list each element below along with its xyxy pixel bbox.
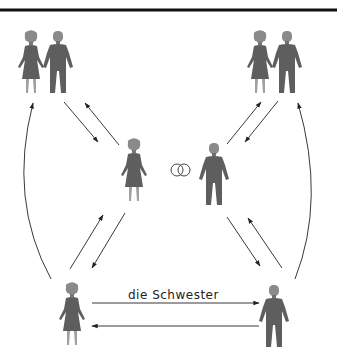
wedding-rings-icon — [171, 164, 190, 176]
arrow-spouse-to-sibling-right — [227, 217, 260, 266]
mother-figure-icon — [18, 30, 44, 93]
arrow-sibling-man-to-parents-right — [295, 103, 311, 279]
arrow-sibling-woman-to-parents-left — [24, 103, 51, 279]
edge-label-schwester: die Schwester — [128, 288, 219, 302]
arrow-spouse-to-parents-left — [85, 103, 119, 145]
family-diagram: die Schwester — [0, 0, 337, 362]
arrow-spouse-to-sibling-left — [92, 213, 125, 268]
parents-left — [18, 30, 73, 93]
sibling-man-figure-icon — [259, 285, 289, 347]
arrow-sibling-to-spouse-right — [248, 218, 282, 268]
spouse-woman-figure-icon — [121, 138, 147, 201]
parents-right — [247, 30, 302, 93]
top-rule — [0, 9, 337, 12]
father-in-law-figure-icon — [272, 31, 302, 93]
arrow-sibling-to-spouse-left — [70, 215, 103, 269]
mother-in-law-figure-icon — [247, 30, 273, 93]
arrow-parents-to-spouse-right — [245, 101, 278, 142]
father-figure-icon — [43, 31, 73, 93]
sibling-woman-figure-icon — [59, 282, 85, 345]
arrow-spouse-to-parents-right — [227, 102, 261, 144]
arrow-parents-to-spouse-left — [64, 102, 98, 142]
spouse-man-figure-icon — [199, 143, 229, 205]
